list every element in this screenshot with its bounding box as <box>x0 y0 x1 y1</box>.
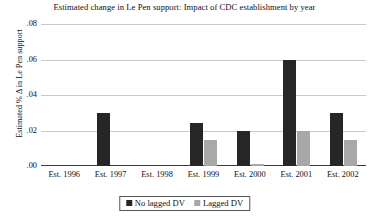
y-tick-label: .06 <box>0 56 37 64</box>
x-tick-label-2002: Est. 2002 <box>320 169 366 180</box>
plot-area <box>41 24 366 166</box>
y-tick-label: .02 <box>0 127 37 135</box>
x-tick-label-1997: Est. 1997 <box>87 169 133 180</box>
bar-lagged-dv-2002[interactable] <box>344 140 357 166</box>
x-tick-label-2000: Est. 2000 <box>227 169 273 180</box>
bar-group-1998 <box>134 24 180 166</box>
y-tick-label: .04 <box>0 91 37 99</box>
legend-entry-lagged-dv[interactable]: Lagged DV <box>194 198 243 208</box>
chart-title: Estimated change in Le Pen support: Impa… <box>0 2 369 13</box>
x-axis-tick-labels: Est. 1996 Est. 1997 Est. 1998 Est. 1999 … <box>41 169 366 183</box>
bar-lagged-dv-2001[interactable] <box>297 131 310 166</box>
bar-no-lagged-dv-1999[interactable] <box>190 123 203 166</box>
x-tick-label-1999: Est. 1999 <box>180 169 226 180</box>
legend-label-lagged-dv: Lagged DV <box>203 198 243 208</box>
legend-swatch-icon <box>194 200 200 206</box>
y-tick-label: .00 <box>0 162 37 170</box>
x-tick-label-1996: Est. 1996 <box>41 169 87 180</box>
bar-group-2002 <box>320 24 366 166</box>
bar-no-lagged-dv-2001[interactable] <box>283 60 296 167</box>
chart-legend: No lagged DV Lagged DV <box>119 196 250 211</box>
legend-label-no-lagged-dv: No lagged DV <box>135 198 185 208</box>
bar-group-1996 <box>41 24 87 166</box>
bar-lagged-dv-2000[interactable] <box>251 164 264 166</box>
legend-swatch-icon <box>126 200 132 206</box>
legend-entry-no-lagged-dv[interactable]: No lagged DV <box>126 198 185 208</box>
bar-no-lagged-dv-1997[interactable] <box>97 113 110 166</box>
bar-group-1999 <box>180 24 226 166</box>
x-tick-label-1998: Est. 1998 <box>134 169 180 180</box>
chart-figure: Estimated change in Le Pen support: Impa… <box>0 0 369 220</box>
bar-group-1997 <box>87 24 133 166</box>
bar-group-2000 <box>227 24 273 166</box>
bar-no-lagged-dv-2002[interactable] <box>330 113 343 166</box>
bar-lagged-dv-1999[interactable] <box>204 140 217 166</box>
y-tick-label: .08 <box>0 20 37 28</box>
bar-group-2001 <box>273 24 319 166</box>
x-tick-label-2001: Est. 2001 <box>273 169 319 180</box>
bar-no-lagged-dv-2000[interactable] <box>237 131 250 166</box>
